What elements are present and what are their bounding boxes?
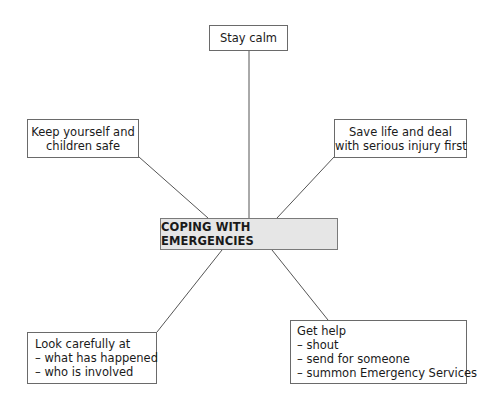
node-text: Look carefully at	[35, 337, 150, 351]
node-text: – shout	[297, 338, 464, 352]
node-keep-safe: Keep yourself and children safe	[27, 119, 139, 158]
node-text: Stay calm	[210, 31, 287, 45]
center-node: COPING WITH EMERGENCIES	[160, 218, 338, 250]
connector-get-help	[272, 250, 328, 320]
center-title: COPING WITH EMERGENCIES	[161, 220, 337, 248]
node-text: Save life and deal	[335, 125, 466, 139]
connector-look-carefully	[157, 250, 222, 332]
node-text: Get help	[297, 324, 464, 338]
node-text: – what has happened	[35, 351, 150, 365]
node-save-life: Save life and deal with serious injury f…	[334, 119, 467, 158]
node-text: with serious injury first	[335, 139, 466, 153]
node-text: children safe	[28, 139, 138, 153]
node-text: – send for someone	[297, 352, 464, 366]
node-text: – who is involved	[35, 365, 150, 379]
node-get-help: Get help – shout – send for someone – su…	[290, 320, 467, 384]
connector-save-life	[277, 157, 334, 218]
node-look-carefully: Look carefully at – what has happened – …	[27, 332, 157, 384]
node-text: – summon Emergency Services	[297, 366, 464, 380]
node-stay-calm: Stay calm	[209, 25, 288, 51]
node-text: Keep yourself and	[28, 125, 138, 139]
connector-keep-safe	[139, 157, 208, 218]
